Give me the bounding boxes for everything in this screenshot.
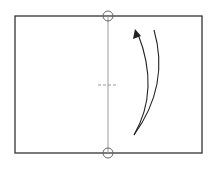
fold-diagram: [0, 0, 216, 171]
